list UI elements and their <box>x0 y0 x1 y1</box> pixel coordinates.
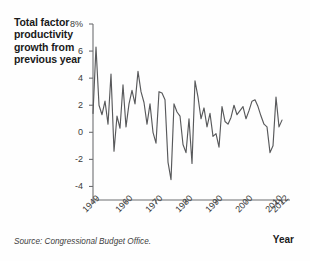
source-note: Source: Congressional Budget Office. <box>14 237 151 246</box>
y-axis-tick-label: 8% <box>53 20 83 29</box>
data-series-line <box>93 47 282 180</box>
y-axis-tick-label: 2 <box>53 101 83 110</box>
y-axis-tick-label: 6 <box>53 47 83 56</box>
axes-group <box>93 24 290 200</box>
y-axis-tick-label: 4 <box>53 74 83 83</box>
y-axis-tick-label: 0 <box>53 128 83 137</box>
x-axis-title: Year <box>273 234 294 245</box>
y-axis-tick-label: -4 <box>53 182 83 191</box>
chart-plot-area: 8%6420-2-4 19491960197019801990200020102… <box>0 0 310 261</box>
line-chart-svg <box>0 0 310 261</box>
figure-container: Total factor productivity growth from pr… <box>0 0 310 261</box>
y-axis-ticks <box>89 24 93 186</box>
y-axis-tick-label: -2 <box>53 155 83 164</box>
